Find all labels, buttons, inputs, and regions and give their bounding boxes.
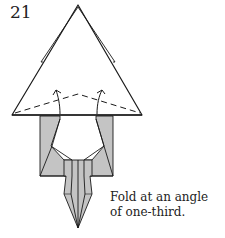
instruction-caption: Fold at an angle of one-third. bbox=[110, 190, 208, 220]
caption-line-1: Fold at an angle bbox=[110, 190, 208, 205]
caption-line-2: of one-third. bbox=[110, 205, 208, 220]
triangle-body bbox=[12, 5, 142, 115]
central-spike bbox=[64, 160, 92, 228]
